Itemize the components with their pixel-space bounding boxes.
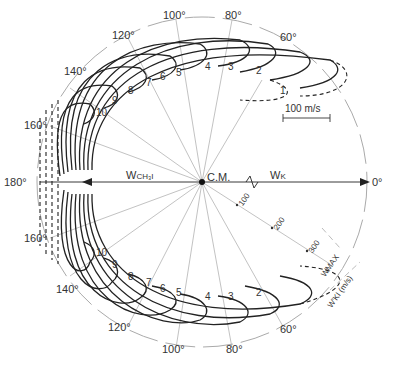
contour-label-bottom-3: 3 [228,292,234,302]
diagram-graphics [0,0,397,367]
w-ch3i-label: WCH₃I [126,170,153,181]
angle-120-bottom: 120° [108,322,131,333]
contour-label-top-8: 8 [128,86,134,96]
angle-160-bottom: 160° [24,233,47,244]
angle-100-top: 100° [163,10,186,21]
scale-bar [283,114,330,122]
contour-label-top-3: 3 [228,62,234,72]
angle-140-top: 140° [64,66,87,77]
w-k-label: WK [270,170,286,181]
contour-label-bottom-5: 5 [176,288,182,298]
angle-180: 180° [4,177,27,188]
angle-0: 0° [372,177,383,188]
contour-label-top-2: 2 [256,66,262,76]
angle-80-top: 80° [225,10,242,21]
w-k-sub: K [280,172,285,181]
contour-label-top-9: 9 [112,96,118,106]
scale-bar-label: 100 m/s [285,104,321,114]
angle-80-bottom: 80° [226,344,243,355]
contour-label-bottom-10: 10 [96,248,107,258]
angle-120-top: 120° [112,30,135,41]
center-of-mass-label: C.M. [207,172,230,183]
contour-label-bottom-7: 7 [146,278,152,288]
contour-label-top-4: 4 [205,62,211,72]
center-of-mass-dot [199,179,205,185]
angle-60-bottom: 60° [280,324,297,335]
contour-label-bottom-4: 4 [205,292,211,302]
angle-60-top: 60° [280,32,297,43]
speed-ticks [236,204,308,252]
w-k-main: W [270,169,280,181]
contour-label-top-10: 10 [96,108,107,118]
angle-100-bottom: 100° [162,344,185,355]
angle-160-top: 160° [24,120,47,131]
w-ch3i-sub: CH₃I [136,172,153,181]
contour-label-bottom-6: 6 [160,284,166,294]
contour-label-bottom-8: 8 [128,272,134,282]
contour-label-top-7: 7 [146,78,152,88]
contour-label-top-1: 1 [280,86,286,96]
contour-label-bottom-9: 9 [112,260,118,270]
contour-label-top-5: 5 [176,68,182,78]
contour-label-top-6: 6 [160,72,166,82]
angle-140-bottom: 140° [56,284,79,295]
w-ch3i-main: W [126,169,136,181]
polar-contour-diagram: C.M. WCH₃I WK 100 m/s 0° 180° 60° 80° 10… [0,0,397,367]
contour-label-bottom-2: 2 [256,288,262,298]
